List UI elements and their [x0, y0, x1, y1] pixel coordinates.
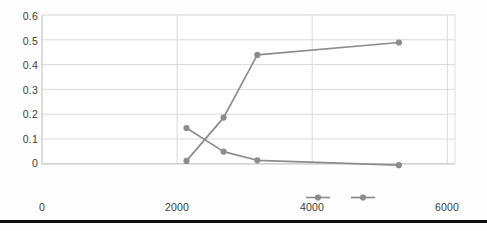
x-axis-tick-label: 6000 — [435, 202, 459, 213]
x-axis-tick-label: 0 — [39, 202, 45, 213]
x-axis-tick-label: 2000 — [165, 202, 189, 213]
x-axis-tick-label: 4000 — [300, 202, 324, 213]
line-chart: 0.6 0.5 0.4 0.3 0.2 0.1 0 — [0, 0, 487, 231]
bottom-divider-rule — [0, 220, 487, 223]
x-axis-tick-labels: 0 2000 4000 6000 — [0, 0, 487, 231]
